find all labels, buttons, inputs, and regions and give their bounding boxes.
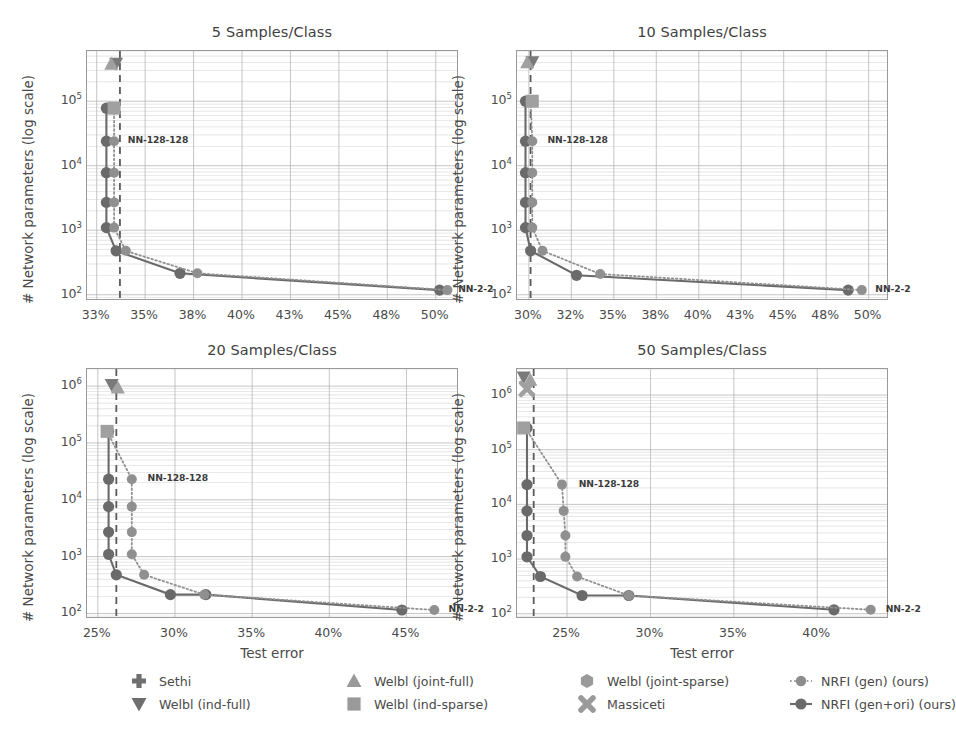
legend-item: Massiceti bbox=[576, 694, 665, 714]
hexagon-icon bbox=[576, 671, 598, 691]
cross-x-icon bbox=[576, 694, 598, 714]
legend-item: Welbl (joint-full) bbox=[343, 671, 474, 691]
legend-item: Welbl (ind-sparse) bbox=[343, 694, 488, 714]
legend-marker bbox=[576, 694, 598, 714]
legend-marker bbox=[576, 671, 598, 691]
triangle-up-icon bbox=[343, 671, 365, 691]
legend-item: NRFI (gen+ori) (ours) bbox=[790, 694, 956, 714]
legend-marker bbox=[790, 694, 812, 714]
solid-line-circle-icon bbox=[790, 694, 812, 714]
legend-label: Sethi bbox=[159, 674, 191, 689]
legend-label: Massiceti bbox=[607, 697, 665, 712]
legend-item: Sethi bbox=[128, 671, 191, 691]
legend-item: Welbl (joint-sparse) bbox=[576, 671, 729, 691]
legend-label: Welbl (joint-sparse) bbox=[607, 674, 729, 689]
legend-item: NRFI (gen) (ours) bbox=[790, 671, 929, 691]
dotted-line-circle-icon bbox=[790, 671, 812, 691]
legend-marker bbox=[790, 671, 812, 691]
legend-marker bbox=[343, 694, 365, 714]
triangle-down-icon bbox=[128, 694, 150, 714]
legend-label: Welbl (ind-sparse) bbox=[374, 697, 488, 712]
legend-marker bbox=[128, 694, 150, 714]
legend-item: Welbl (ind-full) bbox=[128, 694, 251, 714]
legend-label: NRFI (gen) (ours) bbox=[821, 674, 929, 689]
legend-label: Welbl (joint-full) bbox=[374, 674, 474, 689]
plus-icon bbox=[128, 671, 150, 691]
legend-label: Welbl (ind-full) bbox=[159, 697, 251, 712]
legend-label: NRFI (gen+ori) (ours) bbox=[821, 697, 956, 712]
legend-marker bbox=[128, 671, 150, 691]
square-icon bbox=[343, 694, 365, 714]
legend-marker bbox=[343, 671, 365, 691]
